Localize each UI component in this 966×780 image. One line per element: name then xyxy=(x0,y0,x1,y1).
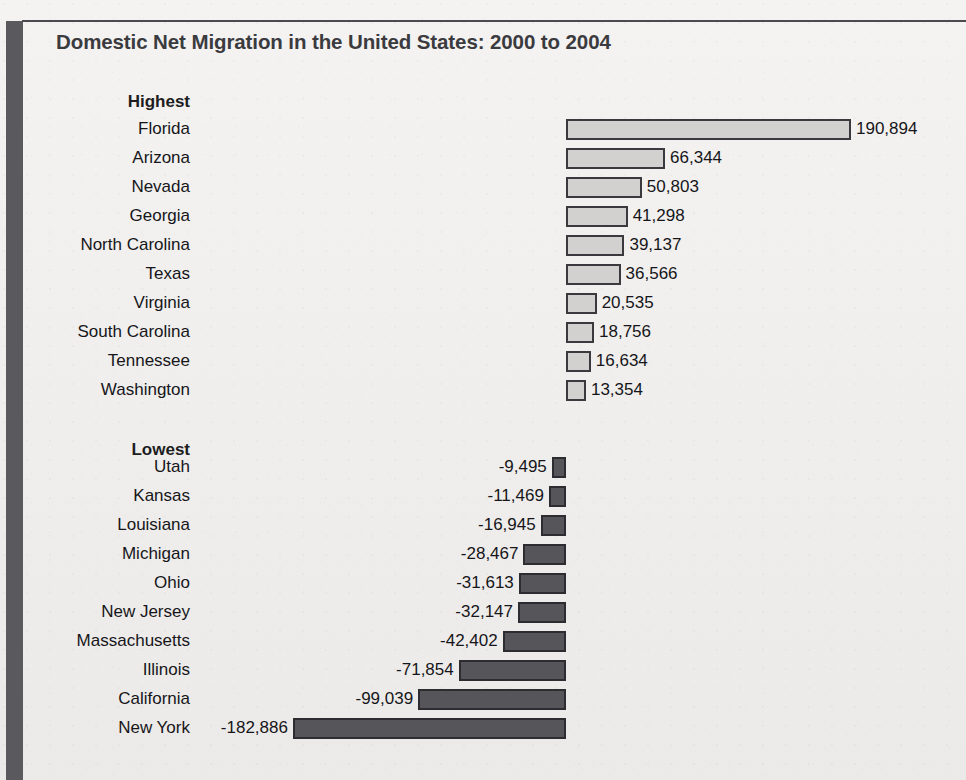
bar-value-label: -42,402 xyxy=(440,629,498,653)
bar-category-label: Ohio xyxy=(0,571,190,595)
bar-row: Florida190,894 xyxy=(0,117,966,146)
bar-negative xyxy=(459,660,566,681)
bar-category-label: Virginia xyxy=(0,291,190,315)
bar-category-label: South Carolina xyxy=(0,320,190,344)
bar-positive xyxy=(566,322,594,343)
bar-row: Virginia20,535 xyxy=(0,291,966,320)
bar-negative xyxy=(503,631,566,652)
chart-figure: Domestic Net Migration in the United Sta… xyxy=(0,0,966,780)
bar-row: Tennessee16,634 xyxy=(0,349,966,378)
bar-value-label: -182,886 xyxy=(221,716,288,740)
bar-category-label: Illinois xyxy=(0,658,190,682)
bar-category-label: Georgia xyxy=(0,204,190,228)
bar-positive xyxy=(566,206,628,227)
bar-category-label: New Jersey xyxy=(0,600,190,624)
bar-positive xyxy=(566,351,591,372)
bar-category-label: Massachusetts xyxy=(0,629,190,653)
bar-value-label: -99,039 xyxy=(355,687,413,711)
bar-category-label: Texas xyxy=(0,262,190,286)
bar-positive xyxy=(566,177,642,198)
bar-row: Georgia41,298 xyxy=(0,204,966,233)
bar-value-label: 50,803 xyxy=(647,175,699,199)
bar-negative xyxy=(519,573,566,594)
bar-value-label: 13,354 xyxy=(591,378,643,402)
bar-row: New York-182,886 xyxy=(0,716,966,745)
bar-value-label: 16,634 xyxy=(596,349,648,373)
bar-category-label: Kansas xyxy=(0,484,190,508)
bar-category-label: New York xyxy=(0,716,190,740)
bar-category-label: Tennessee xyxy=(0,349,190,373)
bar-positive xyxy=(566,119,851,140)
bar-value-label: 36,566 xyxy=(626,262,678,286)
bar-value-label: -16,945 xyxy=(478,513,536,537)
bar-row: California-99,039 xyxy=(0,687,966,716)
bar-value-label: 39,137 xyxy=(629,233,681,257)
bar-row: Illinois-71,854 xyxy=(0,658,966,687)
bar-row: Michigan-28,467 xyxy=(0,542,966,571)
bar-value-label: -31,613 xyxy=(456,571,514,595)
group-header-highest: Highest xyxy=(0,92,190,112)
bar-category-label: Arizona xyxy=(0,146,190,170)
bar-value-label: 20,535 xyxy=(602,291,654,315)
bar-value-label: -71,854 xyxy=(396,658,454,682)
bar-value-label: -28,467 xyxy=(461,542,519,566)
bar-value-label: 41,298 xyxy=(633,204,685,228)
bar-positive xyxy=(566,264,621,285)
bar-negative xyxy=(293,718,566,739)
bar-row: Arizona66,344 xyxy=(0,146,966,175)
bar-row: South Carolina18,756 xyxy=(0,320,966,349)
bar-category-label: North Carolina xyxy=(0,233,190,257)
bar-value-label: 66,344 xyxy=(670,146,722,170)
bar-row: North Carolina39,137 xyxy=(0,233,966,262)
bar-negative xyxy=(418,689,566,710)
bar-category-label: Nevada xyxy=(0,175,190,199)
bar-row: Nevada50,803 xyxy=(0,175,966,204)
bar-row: Kansas-11,469 xyxy=(0,484,966,513)
bar-row: New Jersey-32,147 xyxy=(0,600,966,629)
top-rule-divider xyxy=(22,20,966,22)
bar-value-label: -9,495 xyxy=(499,455,547,479)
bar-category-label: Louisiana xyxy=(0,513,190,537)
chart-title: Domestic Net Migration in the United Sta… xyxy=(56,30,611,54)
bar-positive xyxy=(566,380,586,401)
bar-row: Washington13,354 xyxy=(0,378,966,407)
bar-row: Louisiana-16,945 xyxy=(0,513,966,542)
bar-category-label: California xyxy=(0,687,190,711)
bar-row: Utah-9,495 xyxy=(0,455,966,484)
bar-negative xyxy=(541,515,566,536)
bar-value-label: 18,756 xyxy=(599,320,651,344)
bar-positive xyxy=(566,293,597,314)
bar-negative xyxy=(552,457,566,478)
bar-positive xyxy=(566,148,665,169)
bar-row: Texas36,566 xyxy=(0,262,966,291)
bar-positive xyxy=(566,235,624,256)
bar-negative xyxy=(523,544,566,565)
bar-value-label: 190,894 xyxy=(856,117,917,141)
bar-value-label: -32,147 xyxy=(455,600,513,624)
bar-category-label: Florida xyxy=(0,117,190,141)
bar-row: Ohio-31,613 xyxy=(0,571,966,600)
bar-category-label: Washington xyxy=(0,378,190,402)
bar-negative xyxy=(549,486,566,507)
bar-negative xyxy=(518,602,566,623)
bar-category-label: Michigan xyxy=(0,542,190,566)
bar-row: Massachusetts-42,402 xyxy=(0,629,966,658)
bar-category-label: Utah xyxy=(0,455,190,479)
bar-value-label: -11,469 xyxy=(487,484,543,508)
